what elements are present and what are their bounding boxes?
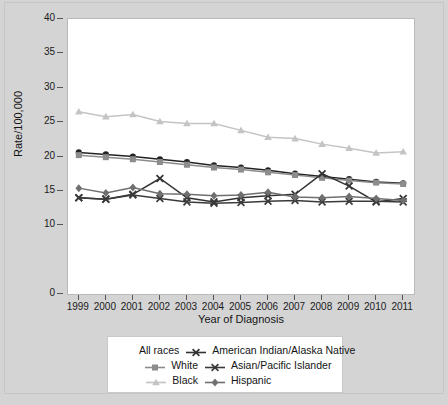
x-tick-mark xyxy=(375,295,376,300)
legend-item-white[interactable]: White xyxy=(112,357,204,372)
plot-area xyxy=(67,18,415,295)
x-tick-mark xyxy=(294,295,295,300)
series-1 xyxy=(76,152,406,187)
plot-svg xyxy=(68,19,414,294)
legend-item-label: All races xyxy=(139,344,179,356)
legend-swatch-cross-icon xyxy=(185,344,207,355)
x-tick-mark xyxy=(186,295,187,300)
legend-item-hispanic[interactable]: Hispanic xyxy=(204,372,336,387)
legend-item-label: Hispanic xyxy=(231,374,271,386)
legend-swatch-cross-icon xyxy=(204,359,226,370)
legend-item-all-races[interactable]: All races xyxy=(112,342,185,357)
x-tick-mark xyxy=(132,295,133,300)
data-point-triangle xyxy=(75,108,83,115)
data-point-square xyxy=(130,156,136,162)
x-tick-mark xyxy=(105,295,106,300)
data-point-square xyxy=(211,165,217,171)
data-point-square xyxy=(373,180,379,186)
data-point-cross xyxy=(346,183,353,190)
x-tick-mark xyxy=(240,295,241,300)
x-tick-mark xyxy=(321,295,322,300)
y-tick-label: 20 xyxy=(44,151,55,161)
series-3 xyxy=(75,170,406,205)
legend-row: BlackHispanic xyxy=(112,372,336,387)
y-tick-label: 15 xyxy=(44,185,55,195)
data-point-square xyxy=(292,172,298,178)
y-tick-mark xyxy=(57,190,63,191)
data-point-square xyxy=(184,162,190,168)
x-tick-label: 1999 xyxy=(67,301,89,312)
y-tick-label: 25 xyxy=(44,116,55,126)
x-tick-mark xyxy=(159,295,160,300)
x-tick-label: 2011 xyxy=(391,301,413,312)
legend-swatch-square-icon xyxy=(144,359,166,370)
legend-item-american-indian-alaska-native[interactable]: American Indian/Alaska Native xyxy=(185,342,355,357)
legend-swatch-diamond-icon xyxy=(204,374,226,385)
data-point-square xyxy=(346,178,352,184)
legend-item-asian-pacific-islander[interactable]: Asian/Pacific Islander xyxy=(204,357,336,372)
y-tick-label: 0 xyxy=(49,288,55,298)
x-tick-mark xyxy=(348,295,349,300)
legend-item-label: White xyxy=(171,359,198,371)
x-tick-label: 2010 xyxy=(364,301,386,312)
legend-item-label: American Indian/Alaska Native xyxy=(212,344,355,356)
y-axis-title: Rate/100,000 xyxy=(12,44,24,204)
legend-item-label: Asian/Pacific Islander xyxy=(231,359,331,371)
y-tick-mark xyxy=(57,121,63,122)
series-2 xyxy=(75,108,407,156)
data-point-diamond xyxy=(184,190,191,198)
x-tick-label: 2009 xyxy=(337,301,359,312)
x-tick-label: 2003 xyxy=(175,301,197,312)
data-point-square xyxy=(238,167,244,173)
data-point-diamond xyxy=(129,183,136,191)
y-tick-mark xyxy=(57,156,63,157)
x-tick-label: 2006 xyxy=(256,301,278,312)
legend-item-label: Black xyxy=(172,374,198,386)
y-tick-label: 10 xyxy=(44,219,55,229)
y-axis: 010152025303540 xyxy=(0,0,67,300)
x-tick-mark xyxy=(213,295,214,300)
x-tick-label: 2004 xyxy=(202,301,224,312)
x-tick-mark xyxy=(267,295,268,300)
x-tick-label: 2002 xyxy=(148,301,170,312)
x-tick-label: 2007 xyxy=(283,301,305,312)
legend-row: WhiteAsian/Pacific Islander xyxy=(112,357,336,372)
x-axis-title: Year of Diagnosis xyxy=(67,313,415,325)
data-point-square xyxy=(157,159,163,165)
y-tick-mark xyxy=(57,293,63,294)
y-tick-mark xyxy=(57,18,63,19)
data-point-square xyxy=(265,169,271,175)
y-tick-mark xyxy=(57,52,63,53)
data-point-square xyxy=(400,181,406,187)
data-point-square xyxy=(76,152,82,158)
legend-swatch-none xyxy=(112,344,134,355)
x-tick-label: 2001 xyxy=(121,301,143,312)
y-tick-label: 35 xyxy=(44,47,55,57)
y-tick-label: 40 xyxy=(44,13,55,23)
legend-swatch-triangle-icon xyxy=(145,374,167,385)
x-tick-label: 2008 xyxy=(310,301,332,312)
y-tick-mark xyxy=(57,224,63,225)
x-tick-label: 2005 xyxy=(229,301,251,312)
data-point-diamond xyxy=(212,379,219,387)
x-tick-mark xyxy=(78,295,79,300)
y-tick-mark xyxy=(57,87,63,88)
chart-figure: 010152025303540 Rate/100,000 19992000200… xyxy=(0,0,448,405)
y-tick-label: 30 xyxy=(44,82,55,92)
legend-item-black[interactable]: Black xyxy=(112,372,204,387)
legend-row: All racesAmerican Indian/Alaska Native xyxy=(112,342,336,357)
x-tick-label: 2000 xyxy=(94,301,116,312)
data-point-diamond xyxy=(75,184,82,192)
chart-legend: All racesAmerican Indian/Alaska NativeWh… xyxy=(107,336,343,393)
x-tick-mark xyxy=(402,295,403,300)
data-point-square xyxy=(103,154,109,160)
data-point-cross xyxy=(157,175,164,182)
data-point-square xyxy=(152,365,158,371)
